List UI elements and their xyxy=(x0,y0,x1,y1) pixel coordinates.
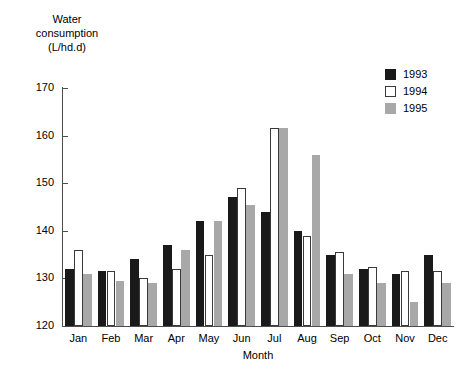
bar-mar-1995 xyxy=(148,283,156,326)
y-axis-tick-label: 120 xyxy=(8,320,54,331)
x-axis-tick-label-oct: Oct xyxy=(356,331,389,345)
legend-label: 1993 xyxy=(403,69,427,80)
bar-jan-1993 xyxy=(65,269,73,326)
bar-mar-1993 xyxy=(130,259,138,326)
y-axis-tick-label: 150 xyxy=(8,177,54,188)
bar-nov-1995 xyxy=(410,302,418,326)
x-axis-tick-label-nov: Nov xyxy=(389,331,422,345)
bar-jan-1995 xyxy=(83,274,91,326)
bar-group xyxy=(160,88,193,326)
legend-item-1994: 1994 xyxy=(385,83,455,100)
bar-chart: Water consumption (L/hd.d) 1701601501401… xyxy=(0,0,460,379)
bar-group xyxy=(421,88,454,326)
legend-label: 1994 xyxy=(403,86,427,97)
bar-jul-1994 xyxy=(270,128,278,326)
bar-group xyxy=(225,88,258,326)
bar-group xyxy=(323,88,356,326)
y-axis-tick-label: 140 xyxy=(8,225,54,236)
bar-group xyxy=(291,88,324,326)
x-axis-tick-label-mar: Mar xyxy=(127,331,160,345)
bar-feb-1993 xyxy=(98,271,106,326)
bar-jun-1995 xyxy=(246,205,254,326)
bar-may-1994 xyxy=(205,255,213,326)
bar-jun-1993 xyxy=(228,197,236,326)
bars-layer xyxy=(62,88,454,326)
bar-nov-1994 xyxy=(401,271,409,326)
bar-oct-1995 xyxy=(377,283,385,326)
bar-group xyxy=(193,88,226,326)
x-axis-title: Month xyxy=(62,349,454,361)
bar-group xyxy=(258,88,291,326)
bar-aug-1994 xyxy=(303,236,311,326)
x-axis-tick-label-may: May xyxy=(193,331,226,345)
legend-swatch-icon-1993 xyxy=(385,69,396,80)
legend-label: 1995 xyxy=(403,103,427,114)
bar-dec-1995 xyxy=(442,283,450,326)
bar-group xyxy=(127,88,160,326)
bar-apr-1993 xyxy=(163,245,171,326)
y-axis-tick-label: 170 xyxy=(8,82,54,93)
bar-mar-1994 xyxy=(139,278,147,326)
x-axis-tick-label-jan: Jan xyxy=(62,331,95,345)
bar-aug-1995 xyxy=(312,155,320,326)
x-axis-tick-label-aug: Aug xyxy=(291,331,324,345)
bar-jun-1994 xyxy=(237,188,245,326)
bar-oct-1994 xyxy=(368,267,376,327)
x-axis-tick-label-apr: Apr xyxy=(160,331,193,345)
x-axis-labels: JanFebMarAprMayJunJulAugSepOctNovDec xyxy=(62,331,454,349)
bar-group xyxy=(62,88,95,326)
bar-group xyxy=(389,88,422,326)
x-axis-tick-label-jul: Jul xyxy=(258,331,291,345)
bar-feb-1994 xyxy=(107,271,115,326)
bar-dec-1993 xyxy=(424,255,432,326)
bar-sep-1995 xyxy=(344,274,352,326)
legend: 199319941995 xyxy=(385,66,455,117)
bar-apr-1994 xyxy=(172,269,180,326)
bar-oct-1993 xyxy=(359,269,367,326)
x-axis-tick-label-jun: Jun xyxy=(225,331,258,345)
y-axis-tick-label: 130 xyxy=(8,272,54,283)
legend-swatch-icon-1994 xyxy=(385,86,396,97)
bar-apr-1995 xyxy=(181,250,189,326)
bar-sep-1994 xyxy=(335,252,343,326)
bar-jan-1994 xyxy=(74,250,82,326)
bar-group xyxy=(356,88,389,326)
bar-sep-1993 xyxy=(326,255,334,326)
y-axis-tick-label: 160 xyxy=(8,130,54,141)
bar-nov-1993 xyxy=(392,274,400,326)
bar-jul-1993 xyxy=(261,212,269,326)
y-axis-title: Water consumption (L/hd.d) xyxy=(8,12,126,54)
x-axis-tick-label-sep: Sep xyxy=(323,331,356,345)
bar-dec-1994 xyxy=(433,271,441,326)
legend-item-1993: 1993 xyxy=(385,66,455,83)
x-axis-tick-label-dec: Dec xyxy=(421,331,454,345)
x-axis-tick-label-feb: Feb xyxy=(95,331,128,345)
bar-feb-1995 xyxy=(116,281,124,326)
legend-swatch-icon-1995 xyxy=(385,103,396,114)
y-axis-tick xyxy=(62,326,68,327)
bar-aug-1993 xyxy=(294,231,302,326)
bar-group xyxy=(95,88,128,326)
bar-jul-1995 xyxy=(279,128,287,326)
legend-item-1995: 1995 xyxy=(385,100,455,117)
bar-may-1995 xyxy=(214,221,222,326)
x-axis-line xyxy=(62,326,454,327)
bar-may-1993 xyxy=(196,221,204,326)
